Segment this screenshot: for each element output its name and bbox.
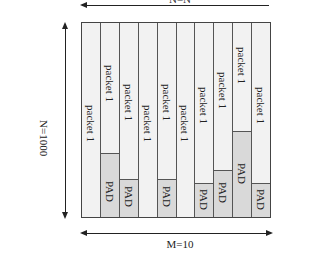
packet-label: packet 1	[85, 105, 97, 142]
packet-label: packet 1	[255, 87, 267, 124]
matrix-column-9: packet 1PAD	[233, 23, 252, 217]
matrix-column-1: packet 1	[82, 23, 101, 217]
rows-dimension-label: N=1000	[38, 120, 50, 156]
matrix-column-3: packet 1PAD	[120, 23, 139, 217]
matrix-column-6: packet 1	[177, 23, 196, 217]
matrix-column-5: packet 1PAD	[158, 23, 177, 217]
pad-label: PAD	[236, 163, 248, 184]
matrix-column-2: packet 1PAD	[101, 23, 120, 217]
matrix-column-7: packet 1PAD	[195, 23, 214, 217]
packet-label: packet 1	[198, 87, 210, 124]
columns-dimension-label: M=10	[140, 238, 220, 250]
matrix-column-10: packet 1PAD	[252, 23, 270, 217]
packet-label: packet 1	[142, 105, 154, 142]
matrix-column-8: packet 1PAD	[214, 23, 233, 217]
vertical-double-arrow	[65, 24, 66, 217]
pad-label: PAD	[217, 182, 229, 203]
packet-label: packet 1	[179, 105, 191, 142]
pad-label: PAD	[104, 181, 116, 202]
pad-label: PAD	[123, 186, 135, 207]
packet-label: packet 1	[236, 47, 248, 84]
packet-label: packet 1	[217, 72, 229, 109]
packet-label: packet 1	[104, 65, 116, 102]
pad-label: PAD	[198, 189, 210, 210]
top-left-arrow	[82, 5, 269, 6]
horizontal-double-arrow	[82, 233, 271, 234]
matrix-column-4: packet 1	[139, 23, 158, 217]
pad-label: PAD	[161, 186, 173, 207]
packet-label: packet 1	[161, 84, 173, 121]
packet-matrix: packet 1packet 1PADpacket 1PADpacket 1pa…	[81, 22, 271, 218]
packet-label: packet 1	[123, 84, 135, 121]
pad-label: PAD	[255, 189, 267, 210]
